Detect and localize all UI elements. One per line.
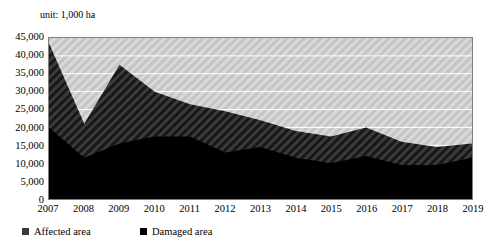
x-axis-tick-label: 2012 [205, 203, 245, 214]
x-axis-tick-label: 2010 [134, 203, 174, 214]
x-axis-tick-label: 2013 [241, 203, 281, 214]
x-axis-tick-label: 2018 [418, 203, 458, 214]
area-chart-svg [49, 38, 472, 199]
chart-legend: Affected areaDamaged area [0, 226, 496, 242]
y-axis-tick-label: 45,000 [0, 32, 44, 42]
legend-label: Damaged area [152, 226, 212, 237]
legend-swatch-icon [140, 228, 147, 235]
x-axis-tick-label: 2016 [347, 203, 387, 214]
x-axis-labels: 2007200820092010201120122013201420152016… [0, 203, 496, 219]
y-axis-tick-label: 25,000 [0, 104, 44, 114]
legend-swatch-icon [22, 228, 29, 235]
x-axis-tick-label: 2007 [28, 203, 68, 214]
chart-page: unit: 1,000 ha 05,00010,00015,00020,0002… [0, 0, 496, 247]
y-axis-tick-label: 40,000 [0, 50, 44, 60]
x-axis-tick-label: 2014 [276, 203, 316, 214]
x-axis-tick-label: 2011 [170, 203, 210, 214]
x-axis-tick-label: 2009 [99, 203, 139, 214]
legend-label: Affected area [34, 226, 91, 237]
x-axis-tick-label: 2015 [311, 203, 351, 214]
x-axis-tick-label: 2017 [382, 203, 422, 214]
x-axis-tick-label: 2019 [453, 203, 493, 214]
y-axis-tick-label: 35,000 [0, 68, 44, 78]
x-axis-tick-label: 2008 [63, 203, 103, 214]
legend-item[interactable]: Affected area [22, 226, 91, 237]
y-axis-tick-label: 10,000 [0, 159, 44, 169]
chart-title [0, 0, 496, 5]
y-axis-tick-label: 15,000 [0, 141, 44, 151]
legend-item[interactable]: Damaged area [140, 226, 212, 237]
plot-area [48, 37, 473, 200]
y-axis-tick-label: 5,000 [0, 177, 44, 187]
y-axis-tick-label: 20,000 [0, 123, 44, 133]
unit-label: unit: 1,000 ha [40, 9, 95, 20]
y-axis-tick-label: 30,000 [0, 86, 44, 96]
